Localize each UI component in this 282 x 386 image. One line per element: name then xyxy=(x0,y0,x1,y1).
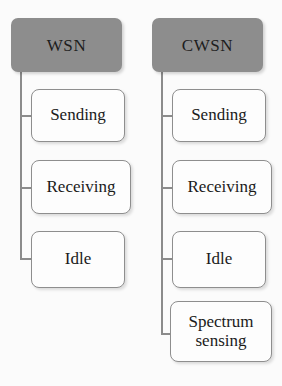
state-label-wsn-idle: Idle xyxy=(62,250,94,268)
state-box-wsn-sending[interactable]: Sending xyxy=(31,89,125,142)
header-label-cwsn: CWSN xyxy=(182,37,234,54)
state-box-wsn-idle[interactable]: Idle xyxy=(31,231,125,288)
header-box-cwsn[interactable]: CWSN xyxy=(152,18,263,72)
diagram-column-cwsn: CWSN Sending Receiving Idle Spectrum sen… xyxy=(141,0,282,386)
header-box-wsn[interactable]: WSN xyxy=(11,18,122,72)
state-label-cwsn-sending: Sending xyxy=(188,106,250,124)
state-box-cwsn-idle[interactable]: Idle xyxy=(172,231,266,288)
state-label-cwsn-idle: Idle xyxy=(203,250,235,268)
diagram-column-wsn: WSN Sending Receiving Idle xyxy=(0,0,141,386)
state-box-cwsn-spectrum-sensing[interactable]: Spectrum sensing xyxy=(170,301,272,362)
state-label-cwsn-receiving: Receiving xyxy=(185,178,260,196)
state-label-wsn-receiving: Receiving xyxy=(44,178,119,196)
connector-trunk-cwsn xyxy=(161,72,163,334)
diagram-canvas: WSN Sending Receiving Idle CWSN Sending xyxy=(0,0,282,386)
state-box-cwsn-sending[interactable]: Sending xyxy=(172,89,266,142)
state-box-wsn-receiving[interactable]: Receiving xyxy=(31,160,131,214)
header-label-wsn: WSN xyxy=(47,37,87,54)
state-label-wsn-sending: Sending xyxy=(47,106,109,124)
state-box-cwsn-receiving[interactable]: Receiving xyxy=(172,160,272,214)
state-label-cwsn-spectrum-sensing: Spectrum sensing xyxy=(185,313,256,349)
connector-trunk-wsn xyxy=(20,72,22,259)
